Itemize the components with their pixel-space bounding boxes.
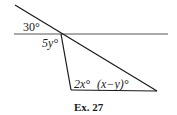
triangle-side-line [61,34,71,90]
geometry-diagram: 30° 5y° 2x° (x−y)° Ex. 27 [0,0,177,115]
angle-x-minus-y-label: (x−y)° [97,77,129,91]
angle-2x-label: 2x° [74,77,90,91]
figure-caption: Ex. 27 [74,101,104,113]
angle-30-label: 30° [23,20,40,34]
angle-5y-label: 5y° [42,36,58,50]
